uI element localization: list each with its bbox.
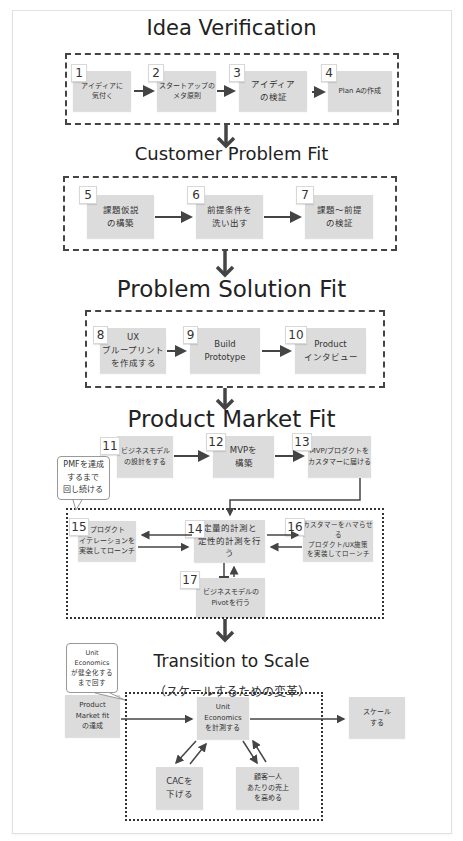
step-9-box: Build Prototype xyxy=(190,328,260,373)
step-17-number: 17 xyxy=(180,571,200,589)
step-5-number: 5 xyxy=(79,186,97,204)
step-3-box: アイディア の検証 xyxy=(239,71,307,111)
step-3-number: 3 xyxy=(229,64,245,82)
step-8-box: UX ブループリント を作成する xyxy=(100,328,166,373)
step-14-number: 14 xyxy=(185,520,205,538)
step-2-number: 2 xyxy=(148,64,164,82)
raise-arpu-box: 顧客一人 あたりの売上 を高める xyxy=(236,767,299,809)
step-6-box: 前提条件を 洗い出す xyxy=(196,195,263,238)
step-16-box: カスタマーをハマらせる プロダクト/UX施策 を実装してローンチ xyxy=(303,520,373,561)
step-11-number: 11 xyxy=(100,437,120,455)
step-2-box: スタートアップの メタ原則 xyxy=(157,71,216,111)
unit-economics-box: Unit Economics を計測する xyxy=(197,697,249,739)
step-13-box: MVP/プロダクトを カスタマーに届ける xyxy=(308,436,371,477)
step-17-box: ビジネスモデルの Pivotを行う xyxy=(196,578,265,617)
step-8-number: 8 xyxy=(93,326,108,344)
step-4-box: Plan Aの作成 xyxy=(328,71,392,111)
step-9-number: 9 xyxy=(183,326,198,344)
step-6-number: 6 xyxy=(187,186,205,204)
step-4-number: 4 xyxy=(321,64,337,82)
scale-box: スケール する xyxy=(349,697,405,738)
step-7-number: 7 xyxy=(296,186,314,204)
pmf-loop-callout: PMFを達成 するまで 回し続ける xyxy=(57,456,110,500)
step-7-box: 課題〜前提 の検証 xyxy=(305,195,373,238)
stage-title-problem-solution-fit: Problem Solution Fit xyxy=(0,276,463,302)
step-12-number: 12 xyxy=(206,433,226,451)
step-15-number: 15 xyxy=(69,518,89,536)
unit-economics-loop-callout: Unit Economics が健全化する まで回す xyxy=(66,643,118,693)
step-16-number: 16 xyxy=(285,518,305,536)
step-11-box: ビジネスモデル の設計をする xyxy=(117,436,173,477)
lower-cac-box: CACを 下げる xyxy=(156,767,203,809)
stage-title-product-market-fit: Product Market Fit xyxy=(0,406,463,432)
step-5-box: 課題仮説 の構築 xyxy=(87,195,154,238)
step-1-number: 1 xyxy=(71,64,87,82)
pmf-achieved-box: Product Market fit の達成 xyxy=(65,695,120,737)
stage-title-customer-problem-fit: Customer Problem Fit xyxy=(0,143,463,164)
step-10-number: 10 xyxy=(285,326,307,344)
stage-title-idea-verification: Idea Verification xyxy=(0,16,463,40)
step-13-number: 13 xyxy=(292,433,312,451)
